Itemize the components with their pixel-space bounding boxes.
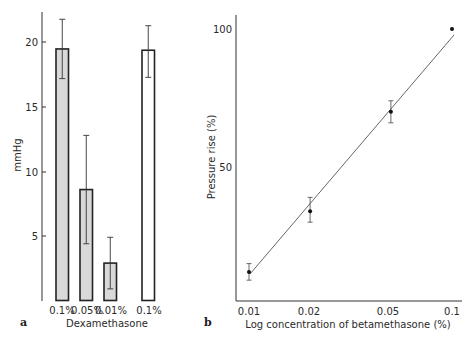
panel-a-x-axis-label: Dexamethasone <box>66 318 148 329</box>
bar <box>142 50 155 300</box>
panel-b-line-chart: 100 50 Pressure rise (%) 0.01 0.02 0.05 … <box>204 15 462 330</box>
data-point <box>450 27 454 31</box>
panel-b-letter: b <box>204 316 212 329</box>
panel-a-ytick-label: 15 <box>25 102 38 113</box>
panel-b-x-axis-label: Log concentration of betamethasone (%) <box>245 319 451 330</box>
data-point <box>247 270 251 274</box>
panel-a-bar-chart: 5 10 15 20 mmHg 0.1% 0.05% 0.01% 0.1% De… <box>12 12 162 329</box>
panel-a-ytick-label: 10 <box>25 167 38 178</box>
data-point <box>308 209 312 213</box>
panel-a-y-axis-label: mmHg <box>12 138 23 171</box>
panel-a-category-label: 0.01% <box>95 305 127 316</box>
panel-a-ytick-label: 5 <box>32 231 38 242</box>
panel-a-category-label: 0.1% <box>136 305 161 316</box>
figure: 5 10 15 20 mmHg 0.1% 0.05% 0.01% 0.1% De… <box>0 0 471 343</box>
panel-a-bars <box>56 19 155 300</box>
panel-b-xtick-label: 0.01 <box>238 306 260 317</box>
panel-b-ytick-label: 100 <box>213 24 232 35</box>
bar <box>56 49 69 301</box>
panel-b-xtick-label: 0.05 <box>377 306 399 317</box>
panel-a-ytick-label: 20 <box>25 37 38 48</box>
panel-b-regression-line <box>250 35 454 274</box>
panel-b-xtick-label: 0.1 <box>444 306 460 317</box>
panel-b-xtick-label: 0.02 <box>298 306 320 317</box>
panel-a-letter: a <box>20 316 27 329</box>
panel-b-ytick-label: 50 <box>219 162 232 173</box>
panel-b-y-axis-label: Pressure rise (%) <box>206 115 217 200</box>
data-point <box>389 110 393 114</box>
